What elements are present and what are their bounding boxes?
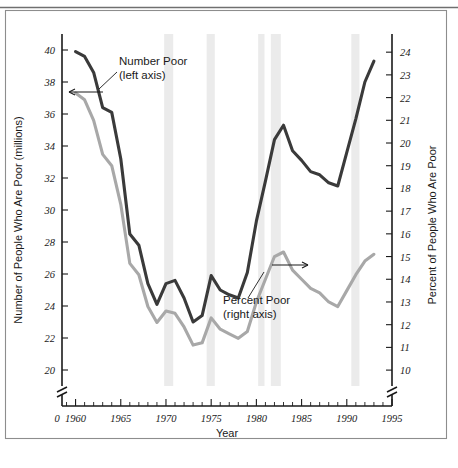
right-tick-label-18: 18 <box>400 183 411 194</box>
x-tick-label-1975: 1975 <box>201 413 222 424</box>
right-tick-label-20: 20 <box>400 138 411 149</box>
chart-canvas: 2022242628303234363840 Number of People … <box>0 0 458 468</box>
left-tick-label-30: 30 <box>44 205 56 216</box>
recession-1969-1970 <box>164 34 173 386</box>
x-tick-label-1985: 1985 <box>291 413 312 424</box>
recession-1981-1982 <box>271 34 281 386</box>
right-axis-title: Percent of People Who Are Poor <box>426 145 438 304</box>
right-tick-label-24: 24 <box>400 47 411 58</box>
left-tick-label-26: 26 <box>45 269 56 280</box>
left-tick-label-36: 36 <box>44 109 56 120</box>
right-tick-label-21: 21 <box>400 115 411 126</box>
right-tick-label-22: 22 <box>400 93 411 104</box>
right-tick-label-14: 14 <box>400 274 411 285</box>
right-tick-label-11: 11 <box>400 342 410 353</box>
x-tick-label-1965: 1965 <box>110 413 131 424</box>
left-tick-label-32: 32 <box>44 173 56 184</box>
left-axis-title: Number of People Who Are Poor (millions) <box>12 116 24 323</box>
left-tick-label-24: 24 <box>45 301 56 312</box>
left-tick-label-22: 22 <box>45 333 56 344</box>
right-tick-label-12: 12 <box>400 320 411 331</box>
number-poor-label-line2: (left axis) <box>119 69 166 81</box>
left-tick-label-38: 38 <box>44 77 56 88</box>
right-tick-label-17: 17 <box>400 206 411 217</box>
number-poor-label-line1: Number Poor <box>119 55 188 67</box>
percent-poor-label-line1: Percent Poor <box>223 294 290 306</box>
left-tick-label-28: 28 <box>45 237 56 248</box>
x-tick-label-1990: 1990 <box>336 413 358 424</box>
x-tick-label-1980: 1980 <box>246 413 268 424</box>
recession-1990-1991 <box>351 34 359 386</box>
right-tick-label-23: 23 <box>400 70 411 81</box>
right-tick-label-19: 19 <box>400 161 411 172</box>
recession-1973-1975 <box>207 34 215 386</box>
right-tick-label-15: 15 <box>400 252 411 263</box>
x-axis-title: Year <box>216 427 239 439</box>
x-tick-label-1970: 1970 <box>155 413 177 424</box>
x-axis-origin-label: 0 <box>54 413 60 424</box>
right-tick-label-10: 10 <box>400 365 411 376</box>
right-tick-label-16: 16 <box>400 229 411 240</box>
left-tick-label-40: 40 <box>45 45 56 56</box>
x-tick-label-1995: 1995 <box>382 413 403 424</box>
poverty-chart-figure: 2022242628303234363840 Number of People … <box>0 0 458 468</box>
left-tick-label-20: 20 <box>45 365 56 376</box>
right-tick-label-13: 13 <box>400 297 411 308</box>
percent-poor-label-line2: (right axis) <box>223 308 277 320</box>
left-tick-label-34: 34 <box>44 141 56 152</box>
x-tick-label-1960: 1960 <box>65 413 87 424</box>
